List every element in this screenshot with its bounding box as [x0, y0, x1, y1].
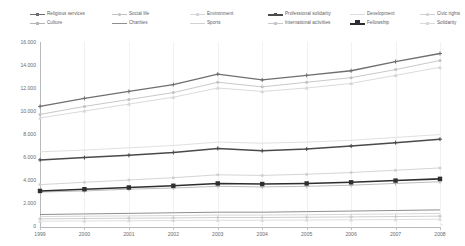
data-point-marker: [261, 174, 264, 177]
data-point-marker: [216, 81, 219, 84]
series-line: [40, 179, 440, 191]
data-point-marker: [83, 181, 86, 184]
data-point-marker: [82, 187, 86, 191]
data-point-marker: [83, 105, 86, 108]
corner-mark: ⌐: [441, 222, 443, 227]
data-point-marker: [439, 166, 442, 169]
data-point-marker: [216, 146, 220, 150]
data-point-marker: [127, 153, 131, 157]
data-point-marker: [393, 178, 397, 182]
data-point-marker: [127, 98, 130, 101]
data-point-marker: [38, 189, 42, 193]
data-point-marker: [349, 144, 353, 148]
series-line: [40, 67, 440, 118]
series-line: [40, 60, 440, 114]
data-point-marker: [171, 150, 175, 154]
data-point-marker: [394, 68, 397, 71]
data-point-marker: [349, 69, 353, 73]
data-point-marker: [172, 91, 175, 94]
data-point-marker: [127, 179, 130, 182]
data-point-marker: [82, 156, 86, 160]
data-point-marker: [39, 183, 42, 186]
data-point-marker: [261, 85, 264, 88]
data-point-marker: [394, 169, 397, 172]
data-point-marker: [305, 147, 309, 151]
data-point-marker: [38, 158, 42, 162]
data-point-marker: [349, 180, 353, 184]
data-point-marker: [216, 72, 220, 76]
data-point-marker: [438, 177, 442, 181]
data-point-marker: [305, 73, 309, 77]
data-point-marker: [127, 89, 131, 93]
data-point-marker: [305, 81, 308, 84]
data-point-marker: [171, 83, 175, 87]
data-point-marker: [350, 76, 353, 79]
data-point-marker: [39, 113, 42, 116]
data-point-marker: [172, 176, 175, 179]
data-point-marker: [38, 104, 42, 108]
data-point-marker: [82, 96, 86, 100]
data-point-marker: [216, 181, 220, 185]
data-point-marker: [439, 59, 442, 62]
data-point-marker: [127, 185, 131, 189]
data-point-marker: [438, 52, 442, 56]
data-point-marker: [394, 141, 398, 145]
data-point-marker: [260, 78, 264, 82]
data-point-marker: [260, 182, 264, 186]
data-point-marker: [350, 171, 353, 174]
data-point-marker: [394, 60, 398, 64]
series-line: [40, 168, 440, 185]
series-line: [40, 54, 440, 107]
data-point-marker: [304, 181, 308, 185]
data-point-marker: [171, 184, 175, 188]
data-point-marker: [216, 173, 219, 176]
data-point-marker: [260, 149, 264, 153]
data-point-marker: [438, 137, 442, 141]
series-line: [40, 219, 440, 221]
data-point-marker: [305, 173, 308, 176]
